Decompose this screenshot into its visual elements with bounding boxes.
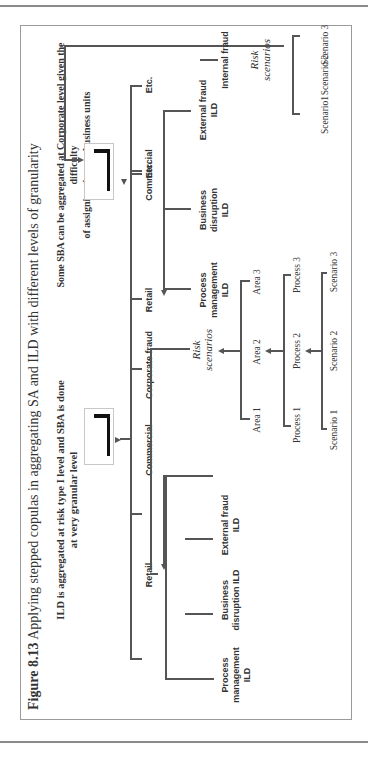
right-node-commercial: Commercial [144, 145, 155, 205]
left-area-2: Area 2 [252, 327, 263, 377]
right-node-etc: Etc. [144, 70, 155, 100]
right-node-retail: Retail [144, 280, 155, 320]
copula-chart-thumbnail-left [84, 408, 114, 465]
figure-number: Figure 8.13 [26, 643, 41, 710]
right-internal-fraud-label: Internal fraud [220, 30, 231, 90]
left-ild-process-management: Process management ILD [220, 640, 253, 710]
figure-caption-text: Applying stepped copulas in aggregating … [26, 143, 41, 640]
figure-caption: Figure 8.13 Applying stepped copulas in … [26, 143, 42, 710]
top-rule [0, 5, 368, 7]
right-ild-business-disruption: Business disruption ILD [198, 175, 231, 245]
left-scenario-2: Scenario 2 [329, 321, 340, 381]
copula-chart-thumbnail-right [84, 143, 114, 200]
left-area-1: Area 1 [252, 395, 263, 445]
left-panel-subtitle: ILD is aggregated at risk type I level a… [54, 360, 80, 640]
right-risk-scenarios: Risk scenarios [248, 25, 272, 95]
right-ild-process-management: Process management ILD [198, 255, 231, 325]
right-ild-external-fraud: External fraud ILD [198, 70, 220, 150]
left-process-3: Process 3 [292, 245, 303, 305]
left-risk-scenarios: Risk scenarios [190, 315, 214, 385]
bottom-rule [0, 741, 368, 743]
left-ild-external-fraud: External fraud ILD [220, 485, 242, 565]
left-area-3: Area 3 [252, 257, 263, 307]
arrow-to-retail-right [161, 290, 167, 296]
arrow-to-copula-right-commercial [121, 179, 127, 185]
right-scenario-3: Scenario 3 [320, 25, 331, 65]
left-ild-business-disruption: Business disruption ILD [220, 560, 242, 640]
left-scenario-1: Scenario 1 [329, 400, 340, 460]
left-process-1: Process 1 [292, 395, 303, 455]
arrow-to-copula-right-internal-fraud [78, 157, 84, 163]
left-process-2: Process 2 [292, 321, 303, 381]
left-scenario-3: Scenario 3 [329, 242, 340, 302]
figure-8-13: Figure 8.13 Applying stepped copulas in … [20, 25, 352, 720]
